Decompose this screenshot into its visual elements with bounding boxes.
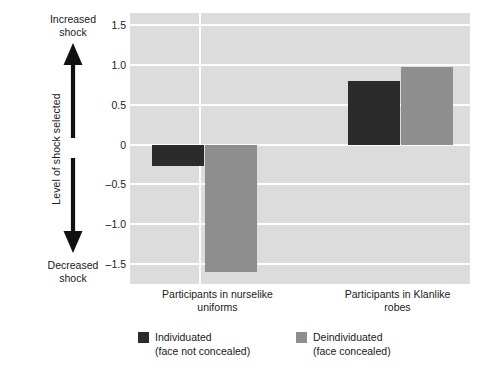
gridline-horizontal	[130, 263, 470, 265]
legend-label-individuated-line1: Individuated	[155, 331, 250, 345]
x-axis-label-group-1: Participants in Klanlike robes	[320, 288, 475, 314]
bar-group-1-series-1	[401, 67, 453, 144]
y-axis-tick-labels: 1.51.00.50–0.5–1.0–1.5	[96, 0, 126, 371]
gridline-horizontal	[130, 24, 470, 26]
y-axis-tick-label: 1.5	[96, 19, 126, 31]
x-axis-label-group-0-line1: Participants in nurselike	[140, 288, 295, 301]
y-axis-tick-label: 1.0	[96, 59, 126, 71]
legend-label-deindividuated-line1: Deindividuated	[313, 331, 391, 345]
plot-area	[130, 13, 470, 284]
y-axis-tick-label: 0.5	[96, 99, 126, 111]
x-axis-label-group-0: Participants in nurselike uniforms	[140, 288, 295, 314]
bar-group-0-series-1	[205, 145, 257, 273]
bar-group-0-series-0	[152, 145, 204, 167]
legend-swatch-deindividuated	[296, 332, 307, 343]
legend-label-deindividuated: Deindividuated (face concealed)	[313, 331, 391, 358]
chart-figure: Level of shock selected Increased shock …	[0, 0, 485, 371]
x-axis-label-group-0-line2: uniforms	[140, 301, 295, 314]
gridline-horizontal	[130, 183, 470, 185]
y-axis-tick-label: –0.5	[96, 178, 126, 190]
bar-group-1-series-0	[348, 81, 400, 145]
gridline-horizontal	[130, 223, 470, 225]
y-axis-tick-label: –1.5	[96, 258, 126, 270]
legend-swatch-individuated	[138, 332, 149, 343]
gridline-horizontal	[130, 64, 470, 66]
chart-legend: Individuated (face not concealed) Deindi…	[138, 331, 468, 363]
legend-item-individuated: Individuated (face not concealed)	[138, 331, 250, 358]
legend-label-deindividuated-line2: (face concealed)	[313, 345, 391, 359]
y-axis-tick-label: –1.0	[96, 218, 126, 230]
legend-label-individuated: Individuated (face not concealed)	[155, 331, 250, 358]
legend-item-deindividuated: Deindividuated (face concealed)	[296, 331, 391, 358]
legend-label-individuated-line2: (face not concealed)	[155, 345, 250, 359]
x-axis-label-group-1-line2: robes	[320, 301, 475, 314]
x-axis-label-group-1-line1: Participants in Klanlike	[320, 288, 475, 301]
x-axis-category-labels: Participants in nurselike uniforms Parti…	[130, 288, 475, 318]
y-axis-tick-label: 0	[96, 139, 126, 151]
